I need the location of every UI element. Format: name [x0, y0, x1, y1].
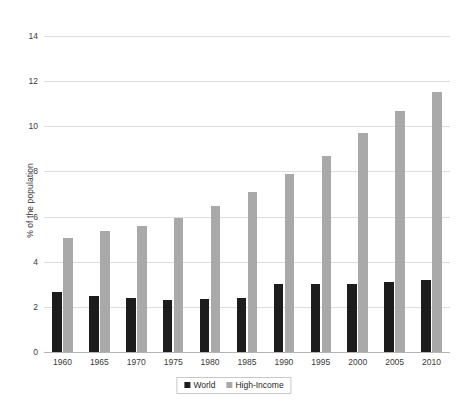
- legend-swatch-high-income: [226, 382, 232, 388]
- bar-world-1970[interactable]: [126, 298, 136, 352]
- bar-high-income-1985[interactable]: [248, 192, 258, 352]
- bar-group: [421, 36, 442, 352]
- bar-group: [347, 36, 368, 352]
- legend-label-high-income: High-Income: [235, 380, 283, 390]
- bar-world-2010[interactable]: [421, 280, 431, 352]
- bar-group: [274, 36, 295, 352]
- x-tick-2010: 2010: [413, 356, 450, 368]
- legend-entry-high-income[interactable]: High-Income: [226, 380, 283, 390]
- x-tick-1970: 1970: [118, 356, 155, 368]
- bar-high-income-1995[interactable]: [322, 156, 332, 352]
- bar-chart: % of the population 02468101214 19601965…: [0, 0, 468, 401]
- bar-high-income-1960[interactable]: [63, 238, 73, 352]
- x-tick-1960: 1960: [44, 356, 81, 368]
- x-tick-1965: 1965: [81, 356, 118, 368]
- bar-world-1975[interactable]: [163, 300, 173, 352]
- bar-world-1985[interactable]: [237, 298, 247, 352]
- y-tick-2: 2: [0, 302, 38, 312]
- chart-legend: World High-Income: [176, 377, 291, 394]
- y-axis-tick-labels: 02468101214: [0, 36, 38, 352]
- bar-group: [384, 36, 405, 352]
- bar-world-2005[interactable]: [384, 282, 394, 352]
- bar-group: [52, 36, 73, 352]
- bar-high-income-1980[interactable]: [211, 206, 221, 352]
- bar-high-income-2005[interactable]: [395, 111, 405, 353]
- x-tick-1975: 1975: [155, 356, 192, 368]
- y-tick-12: 12: [0, 76, 38, 86]
- bar-group: [237, 36, 258, 352]
- x-axis-tick-labels: 1960196519701975198019851990199520002005…: [44, 356, 450, 370]
- bar-world-1995[interactable]: [311, 284, 321, 352]
- bar-high-income-1965[interactable]: [100, 231, 110, 352]
- bar-world-1980[interactable]: [200, 299, 210, 352]
- bar-high-income-1990[interactable]: [285, 174, 295, 352]
- bar-group: [311, 36, 332, 352]
- bar-high-income-1970[interactable]: [137, 226, 147, 352]
- bar-world-2000[interactable]: [347, 284, 357, 352]
- x-tick-1985: 1985: [229, 356, 266, 368]
- bar-group: [126, 36, 147, 352]
- legend-label-world: World: [193, 380, 215, 390]
- y-tick-6: 6: [0, 212, 38, 222]
- y-tick-14: 14: [0, 31, 38, 41]
- y-tick-8: 8: [0, 166, 38, 176]
- bar-group: [163, 36, 184, 352]
- y-tick-0: 0: [0, 347, 38, 357]
- bar-group: [200, 36, 221, 352]
- x-tick-1995: 1995: [302, 356, 339, 368]
- gridline-0: [44, 352, 450, 353]
- x-tick-1980: 1980: [192, 356, 229, 368]
- legend-swatch-world: [184, 382, 190, 388]
- bar-world-1960[interactable]: [52, 292, 62, 352]
- bar-high-income-2010[interactable]: [432, 92, 442, 352]
- y-tick-10: 10: [0, 121, 38, 131]
- bar-high-income-2000[interactable]: [358, 133, 368, 352]
- x-tick-1990: 1990: [265, 356, 302, 368]
- plot-area: [44, 36, 450, 352]
- y-tick-4: 4: [0, 257, 38, 267]
- bar-world-1965[interactable]: [89, 296, 99, 352]
- legend-entry-world[interactable]: World: [184, 380, 215, 390]
- bar-world-1990[interactable]: [274, 284, 284, 352]
- x-tick-2005: 2005: [376, 356, 413, 368]
- bar-group: [89, 36, 110, 352]
- x-tick-2000: 2000: [339, 356, 376, 368]
- bar-high-income-1975[interactable]: [174, 218, 184, 352]
